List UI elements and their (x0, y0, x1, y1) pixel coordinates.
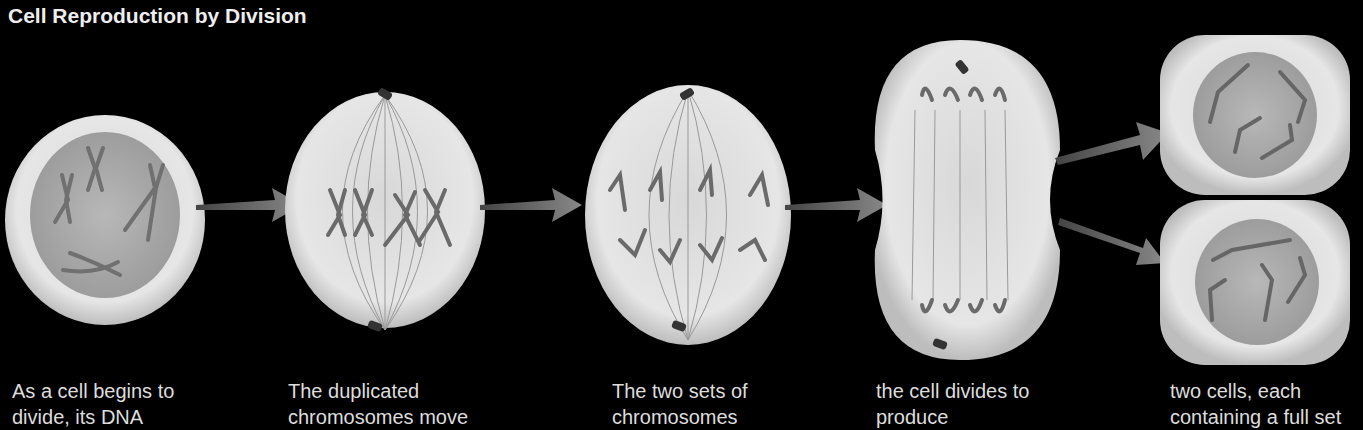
caption-line: As a cell begins to (12, 378, 174, 404)
cell-metaphase (285, 87, 485, 332)
caption-stage-3: The two sets ofchromosomes (612, 378, 748, 430)
cell-anaphase (585, 85, 791, 345)
caption-line: chromosomes (612, 404, 748, 430)
caption-line: the cell divides to (876, 378, 1029, 404)
arrow-icon (785, 188, 887, 222)
cell-telophase (875, 40, 1060, 360)
arrow-icon (1058, 218, 1165, 265)
caption-stage-2: The duplicatedchromosomes move (288, 378, 468, 430)
caption-stage-5: two cells, eachcontaining a full set (1170, 378, 1341, 430)
cell-interphase (5, 115, 205, 325)
caption-stage-1: As a cell begins todivide, its DNA (12, 378, 174, 430)
caption-line: containing a full set (1170, 404, 1341, 430)
daughter-cells (1160, 35, 1350, 365)
arrow-icon (1055, 122, 1168, 165)
caption-line: divide, its DNA (12, 404, 174, 430)
caption-line: produce (876, 404, 1029, 430)
arrow-icon (480, 188, 582, 222)
caption-line: The duplicated (288, 378, 468, 404)
caption-line: The two sets of (612, 378, 748, 404)
caption-stage-4: the cell divides toproduce (876, 378, 1029, 430)
caption-line: two cells, each (1170, 378, 1341, 404)
caption-line: chromosomes move (288, 404, 468, 430)
